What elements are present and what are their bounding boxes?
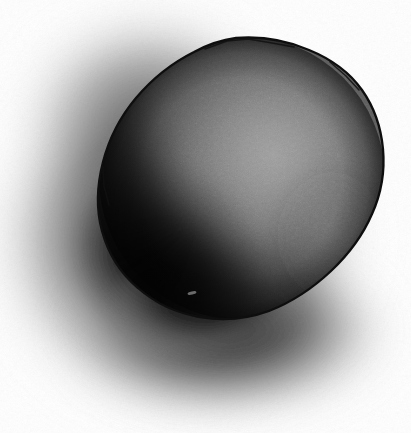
drawing-canvas: Pencil drawing of a dark sphere lit from… <box>0 0 411 433</box>
sphere-drawing-svg <box>0 0 411 433</box>
paper-scan-lines <box>0 0 411 433</box>
